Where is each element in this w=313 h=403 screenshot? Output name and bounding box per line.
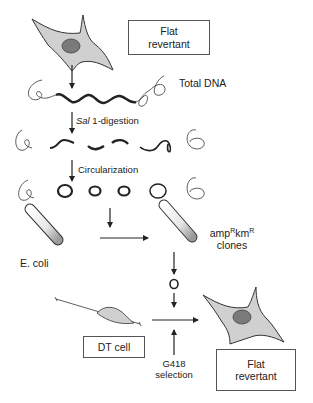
clones-text: clones [203, 239, 261, 251]
top-box-line1: Flat [129, 25, 209, 38]
dt-cell-icon [55, 297, 141, 326]
flat-revertant-cell-bottom-icon [203, 287, 284, 344]
bottom-box-line2: revertant [217, 370, 295, 383]
flat-revertant-cell-top-icon [32, 15, 113, 71]
bottom-box-line1: Flat [217, 358, 295, 371]
total-dna-strand-icon [28, 76, 165, 106]
circularization-label: Circularization [78, 164, 138, 176]
dt-cell-box: DT cell [83, 336, 145, 358]
top-box-line2: revertant [129, 38, 209, 51]
clones-label: ampRkmR clones [203, 227, 261, 251]
sal-enzyme-text: Sal [76, 115, 90, 126]
bottom-flat-revertant-box: Flat revertant [216, 349, 296, 391]
g418-selection-label: G418 selection [150, 358, 198, 380]
circularized-plasmids-icon [19, 178, 205, 201]
ecoli-label: E. coli [20, 257, 49, 269]
dt-cell-label: DT cell [84, 341, 144, 354]
digestion-suffix-text: 1-digestion [90, 115, 139, 126]
clones-resistance-text: ampRkmR [203, 227, 261, 239]
plasmid-icon [170, 280, 178, 289]
sal-digestion-label: Sal 1-digestion [76, 115, 139, 127]
digested-fragments-icon [16, 130, 205, 152]
flow-diagram [0, 0, 313, 403]
top-flat-revertant-box: Flat revertant [128, 20, 210, 55]
ecoli-cell-icon [30, 209, 58, 240]
clone-cell-icon [164, 205, 192, 237]
total-dna-label: Total DNA [179, 77, 226, 89]
